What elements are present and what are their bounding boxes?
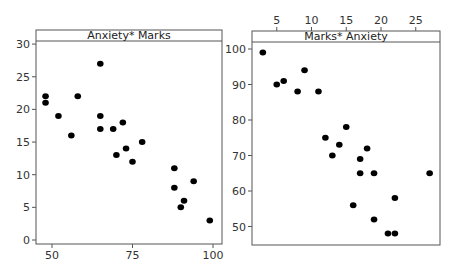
x-tick-label: 100	[203, 249, 224, 262]
x-tick-label: 15	[339, 14, 353, 27]
y-tick-label: 70	[232, 150, 246, 163]
plot-frame	[36, 30, 222, 244]
panel-title: Marks* Anxiety	[304, 30, 388, 43]
y-tick-label: 80	[232, 114, 246, 127]
x-tick-label: 50	[45, 249, 59, 262]
data-point	[385, 231, 392, 237]
data-point	[426, 170, 433, 176]
data-point	[322, 135, 329, 141]
data-point	[42, 93, 49, 99]
data-point	[294, 89, 301, 95]
plot-frame	[252, 31, 440, 245]
data-point	[178, 204, 185, 210]
data-point	[181, 198, 188, 204]
y-tick-label: 30	[16, 38, 30, 51]
data-point	[97, 61, 104, 67]
data-point	[315, 89, 322, 95]
x-tick-label: 10	[305, 14, 319, 27]
x-tick-label: 25	[409, 14, 423, 27]
data-point	[280, 78, 287, 84]
data-point	[123, 146, 130, 152]
x-tick-label: 5	[273, 14, 280, 27]
scatter-panel-right: Marks* Anxiety5060708090100510152025	[225, 14, 440, 245]
data-point	[357, 170, 364, 176]
data-point	[68, 133, 75, 139]
y-tick-label: 25	[16, 71, 30, 84]
data-point	[97, 113, 104, 119]
y-tick-label: 5	[23, 201, 30, 214]
data-point	[190, 178, 197, 184]
data-point	[336, 142, 343, 148]
data-point	[329, 153, 336, 159]
data-point	[371, 170, 378, 176]
data-point	[273, 82, 280, 88]
data-point	[301, 67, 308, 73]
data-point	[129, 159, 136, 165]
data-point	[113, 152, 120, 158]
data-point	[371, 216, 378, 222]
data-point	[171, 165, 178, 171]
data-point	[392, 195, 399, 201]
y-tick-label: 0	[23, 234, 30, 247]
data-point	[260, 50, 267, 56]
panel-title: Anxiety* Marks	[87, 29, 171, 42]
data-point	[97, 126, 104, 132]
y-tick-label: 15	[16, 136, 30, 149]
data-point	[392, 231, 399, 237]
y-tick-label: 10	[16, 169, 30, 182]
data-point	[74, 93, 81, 99]
y-tick-label: 100	[225, 43, 246, 56]
y-tick-label: 50	[232, 221, 246, 234]
data-point	[357, 156, 364, 162]
data-point	[364, 145, 371, 151]
data-point	[42, 100, 49, 106]
data-point	[343, 124, 350, 130]
data-point	[206, 217, 213, 223]
y-tick-label: 90	[232, 79, 246, 92]
x-tick-label: 75	[126, 249, 140, 262]
x-tick-label: 20	[374, 14, 388, 27]
data-point	[350, 202, 357, 208]
scatter-plot-figure: Anxiety* Marks0510152025305075100Marks* …	[0, 0, 456, 268]
data-point	[110, 126, 117, 132]
y-tick-label: 20	[16, 103, 30, 116]
data-point	[171, 185, 178, 191]
data-point	[55, 113, 62, 119]
data-point	[120, 119, 127, 125]
data-point	[139, 139, 146, 145]
scatter-panel-left: Anxiety* Marks0510152025305075100	[16, 29, 224, 262]
y-tick-label: 60	[232, 185, 246, 198]
